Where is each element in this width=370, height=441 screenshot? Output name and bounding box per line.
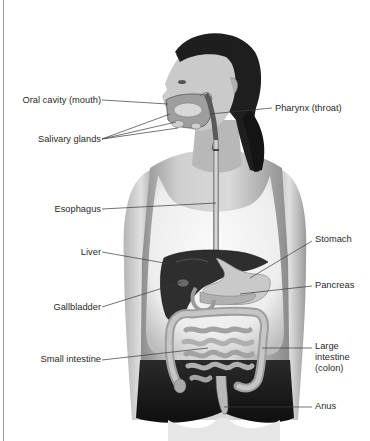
leader-salivary-3 bbox=[102, 128, 178, 139]
label-large-intestine-line3: (colon) bbox=[315, 363, 350, 374]
label-large-intestine-line1: Large bbox=[315, 341, 350, 352]
leader-salivary-2 bbox=[102, 122, 176, 139]
label-salivary-glands: Salivary glands bbox=[38, 134, 101, 145]
label-large-intestine: Large intestine (colon) bbox=[315, 341, 350, 374]
label-pharynx: Pharynx (throat) bbox=[275, 103, 342, 114]
label-esophagus: Esophagus bbox=[54, 204, 101, 215]
label-stomach: Stomach bbox=[315, 234, 352, 245]
digestive-system-illustration bbox=[0, 0, 370, 441]
shorts bbox=[136, 360, 294, 423]
oral-cavity-region bbox=[166, 93, 212, 129]
label-liver: Liver bbox=[81, 247, 101, 258]
label-anus: Anus bbox=[315, 401, 336, 412]
eye bbox=[178, 80, 186, 84]
label-gallbladder: Gallbladder bbox=[53, 302, 101, 313]
leader-salivary-1 bbox=[102, 114, 170, 139]
label-small-intestine: Small intestine bbox=[41, 354, 101, 365]
label-oral-cavity: Oral cavity (mouth) bbox=[22, 95, 101, 106]
label-large-intestine-line2: intestine bbox=[315, 352, 350, 363]
leader-oral-cavity bbox=[102, 100, 168, 104]
diagram-canvas: Oral cavity (mouth) Salivary glands Esop… bbox=[0, 0, 370, 441]
label-pancreas: Pancreas bbox=[315, 280, 354, 291]
